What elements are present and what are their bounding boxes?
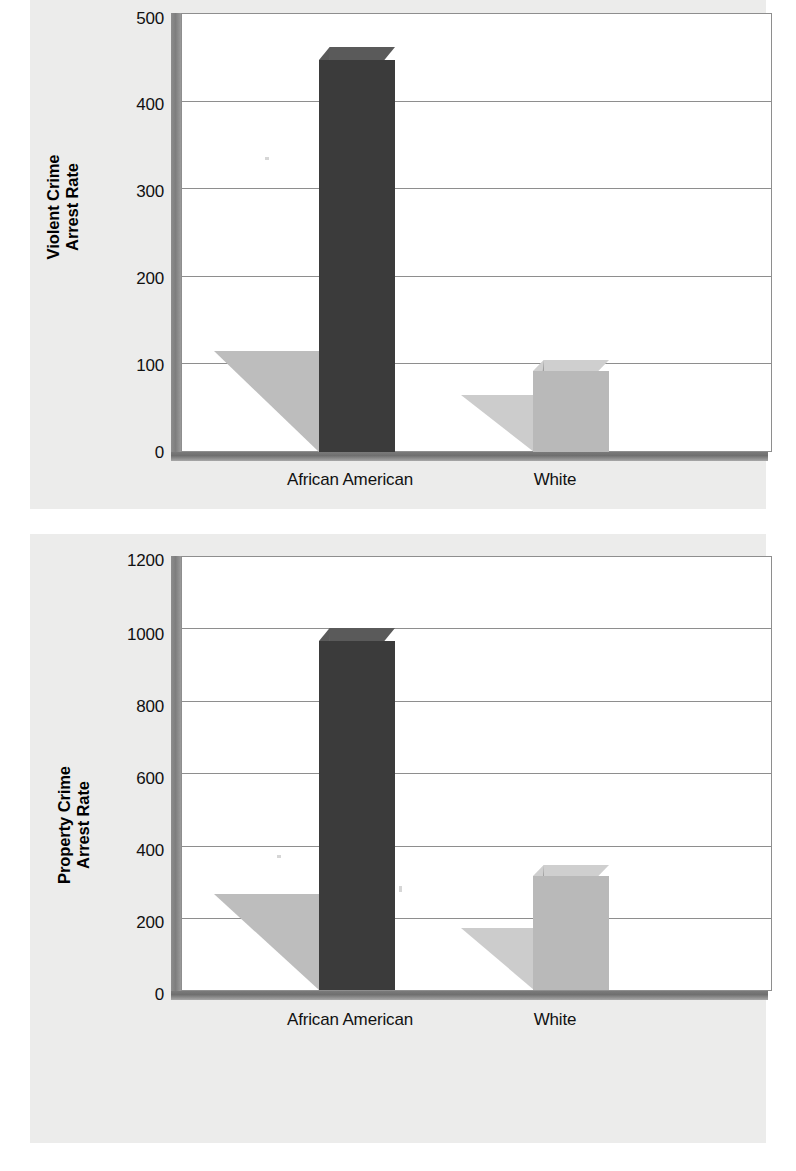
violent-y-tick-400: 400 — [82, 95, 164, 115]
violent-plot-bottom-border — [181, 451, 772, 452]
property-chart-plot-area — [181, 556, 772, 991]
property-plot-top-border — [181, 556, 772, 557]
property-y-tick-600: 600 — [70, 769, 164, 789]
property-bar-african-american — [319, 628, 395, 990]
violent-bar-african-american-front-face — [319, 60, 395, 452]
violent-gridline-300 — [181, 188, 772, 189]
property-crime-chart-panel: Property Crime Arrest Rate 1200 1000 800… — [30, 534, 766, 1143]
property-y-tick-1200: 1200 — [70, 551, 164, 571]
violent-category-label-african-american: African American — [250, 470, 450, 490]
violent-bar-african-american-top-face — [319, 47, 395, 60]
property-y-tick-400: 400 — [70, 841, 164, 861]
property-y-tick-1000: 1000 — [70, 625, 164, 645]
property-plot-bottom-border — [181, 990, 772, 991]
violent-y-tick-300: 300 — [82, 182, 164, 202]
property-chart-floor — [171, 991, 768, 1000]
violent-bar-white — [533, 360, 609, 452]
violent-y-tick-100: 100 — [82, 356, 164, 376]
violent-plot-top-border — [181, 13, 772, 14]
violent-bar-white-front-face — [533, 371, 609, 452]
violent-dark-bar-shadow — [214, 351, 319, 452]
violent-chart-plot-area — [181, 13, 772, 452]
scan-speck — [265, 157, 269, 160]
property-bar-african-american-top-face — [319, 628, 395, 641]
violent-bar-white-top-face — [533, 360, 609, 371]
violent-category-label-white: White — [480, 470, 630, 490]
property-gridline-800 — [181, 701, 772, 702]
property-chart-left-wall — [171, 556, 181, 998]
violent-chart-floor — [171, 452, 768, 461]
violent-y-axis-title-line2: Arrest Rate — [63, 131, 82, 283]
property-y-tick-800: 800 — [70, 697, 164, 717]
violent-crime-chart-panel: Violent Crime Arrest Rate 500 400 300 20… — [30, 0, 766, 509]
property-light-bar-shadow — [461, 928, 534, 990]
property-bar-white-front-face — [533, 876, 609, 990]
property-category-label-african-american: African American — [250, 1010, 450, 1030]
property-category-label-white: White — [480, 1010, 630, 1030]
violent-chart-y-axis-title: Violent Crime Arrest Rate — [44, 131, 82, 283]
violent-light-bar-shadow — [461, 395, 534, 452]
scan-speck — [399, 886, 402, 892]
property-gridline-400 — [181, 846, 772, 847]
violent-y-axis-title-line1: Violent Crime — [44, 155, 62, 260]
property-gridline-600 — [181, 773, 772, 774]
scan-speck — [277, 855, 281, 858]
property-bar-white — [533, 865, 609, 990]
violent-chart-left-wall — [171, 13, 181, 459]
violent-plot-left-border — [181, 13, 182, 452]
violent-y-tick-0: 0 — [82, 443, 164, 463]
property-y-tick-0: 0 — [70, 985, 164, 1005]
violent-y-tick-500: 500 — [82, 9, 164, 29]
property-bar-african-american-front-face — [319, 641, 395, 990]
violent-gridline-200 — [181, 276, 772, 277]
violent-plot-right-border — [771, 13, 772, 452]
violent-bar-african-american — [319, 47, 395, 452]
property-dark-bar-shadow — [214, 894, 319, 990]
violent-y-tick-200: 200 — [82, 269, 164, 289]
violent-gridline-400 — [181, 101, 772, 102]
property-y-tick-200: 200 — [70, 913, 164, 933]
property-bar-white-top-face — [533, 865, 609, 876]
property-gridline-1000 — [181, 628, 772, 629]
